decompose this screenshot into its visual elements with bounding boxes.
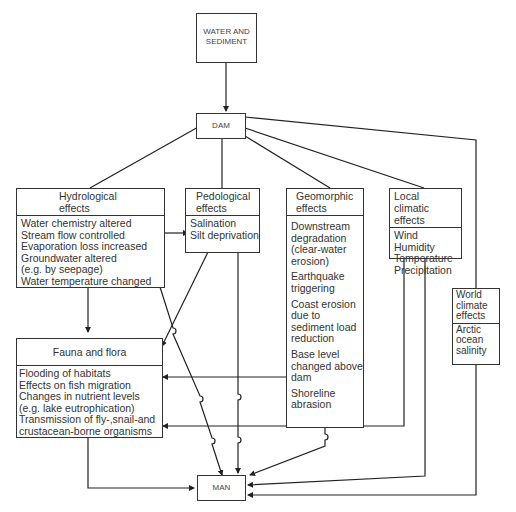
dam-label: DAM	[197, 121, 245, 131]
geomorphic-line: erosion)	[291, 256, 359, 268]
local-climatic-title-1: Local climatic	[394, 190, 457, 214]
man-box: MAN	[197, 475, 246, 501]
hydrological-title-1: Hydrological	[59, 190, 160, 202]
local-climatic-item: Precipitation	[394, 265, 457, 277]
geomorphic-line: abrasion	[291, 399, 359, 411]
geomorphic-line: Downstream	[291, 221, 359, 233]
pedological-title-2: effects	[196, 202, 255, 214]
fauna-and-flora-title: Fauna and flora	[21, 346, 158, 358]
local-climatic-item: Wind	[394, 230, 457, 242]
geomorphic-effects-box: Geomorphic effects Downstream degradatio…	[286, 188, 364, 428]
hydrological-item: Water temperature changed	[21, 276, 160, 288]
geomorphic-group-downstream: Downstream degradation (clear-water eros…	[291, 221, 359, 267]
fauna-and-flora-box: Fauna and flora Flooding of habitats Eff…	[16, 338, 163, 438]
man-label: MAN	[198, 483, 245, 493]
world-climate-item: ocean	[456, 335, 496, 346]
world-climate-item: salinity	[456, 346, 496, 357]
hydrological-item: Water chemistry altered	[21, 218, 160, 230]
geomorphic-line: due to	[291, 310, 359, 322]
pedological-title-1: Pedological	[196, 190, 255, 202]
geomorphic-line: reduction	[291, 333, 359, 345]
geomorphic-line: Base level	[291, 349, 359, 361]
water-and-sediment-label: WATER AND SEDIMENT	[197, 27, 256, 47]
water-and-sediment-box: WATER AND SEDIMENT	[196, 13, 257, 63]
geomorphic-line: triggering	[291, 283, 359, 295]
world-climate-title-1: World	[456, 290, 496, 301]
world-climate-effects-box: World climate effects Arctic ocean salin…	[452, 288, 500, 365]
pedological-item: Silt deprivation	[190, 230, 255, 242]
dam-box: DAM	[196, 113, 246, 139]
local-climatic-effects-box: Local climatic effects Wind Humidity Tem…	[389, 188, 462, 259]
geomorphic-group-base-level: Base level changed above dam	[291, 349, 359, 384]
pedological-effects-box: Pedological effects Salination Silt depr…	[185, 188, 260, 253]
hydrological-title-2: effects	[59, 202, 160, 214]
fauna-item: Flooding of habitats	[19, 368, 160, 380]
world-climate-title-3: effects	[456, 311, 496, 322]
fauna-item: crustacean-borne organisms	[19, 426, 160, 438]
geomorphic-line: dam	[291, 372, 359, 384]
hydrological-effects-box: Hydrological effects Water chemistry alt…	[16, 188, 165, 288]
geomorphic-group-shoreline: Shoreline abrasion	[291, 388, 359, 411]
local-climatic-title-2: effects	[394, 214, 457, 226]
geomorphic-group-earthquake: Earthquake triggering	[291, 271, 359, 294]
geomorphic-group-coast-erosion: Coast erosion due to sediment load reduc…	[291, 299, 359, 345]
geomorphic-title-2: effects	[296, 202, 359, 214]
geomorphic-title-1: Geomorphic	[296, 190, 359, 202]
pedological-item: Salination	[190, 218, 255, 230]
